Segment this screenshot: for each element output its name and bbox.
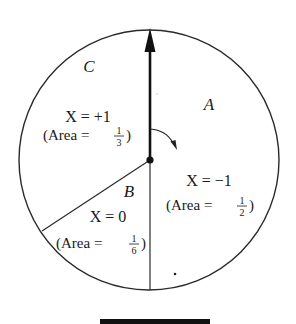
region-c-area-prefix: (Area = <box>43 127 89 144</box>
region-b-value: X = 0 <box>90 208 127 225</box>
region-a-area: (Area = 1 2 ) <box>166 195 254 218</box>
region-c-area: (Area = 1 3 ) <box>43 125 131 148</box>
region-b-area: (Area = 1 6 ) <box>56 233 146 256</box>
scan-speck <box>164 29 165 30</box>
pivot-dot <box>146 156 153 163</box>
region-a-letter: A <box>203 95 215 114</box>
region-a-area-denominator: 2 <box>240 207 245 218</box>
region-b-area-prefix: (Area = <box>56 235 102 252</box>
bottom-rule <box>100 319 210 324</box>
region-a-value: X = −1 <box>186 172 232 189</box>
region-c-letter: C <box>83 57 95 76</box>
region-a-area-suffix: ) <box>249 197 254 214</box>
region-c-value: X = +1 <box>65 108 111 125</box>
region-b-area-denominator: 6 <box>132 245 137 256</box>
region-a-area-numerator: 1 <box>240 195 245 206</box>
scan-speck <box>174 273 177 276</box>
clockwise-arrow-icon <box>150 129 177 150</box>
region-c-area-suffix: ) <box>126 127 131 144</box>
pointer-arrow-icon <box>145 28 156 160</box>
region-b-area-numerator: 1 <box>132 233 137 244</box>
scan-speck <box>156 93 157 94</box>
region-c-area-numerator: 1 <box>117 125 122 136</box>
region-a-area-prefix: (Area = <box>166 197 212 214</box>
region-b-area-suffix: ) <box>141 235 146 252</box>
region-c-area-denominator: 3 <box>117 137 122 148</box>
region-b-letter: B <box>124 182 135 201</box>
spinner-diagram: C X = +1 (Area = 1 3 ) A X = −1 (Area = … <box>0 0 296 324</box>
